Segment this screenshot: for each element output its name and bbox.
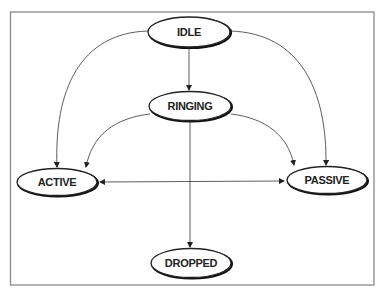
edge-active-passive-bidirectional <box>100 181 284 182</box>
node-label: DROPPED <box>165 257 218 269</box>
node-active: ACTIVE <box>17 169 98 197</box>
node-dropped: DROPPED <box>151 249 232 279</box>
node-passive: PASSIVE <box>287 167 368 195</box>
diagram-frame <box>11 12 375 285</box>
edge-ringing-to-active <box>86 114 150 167</box>
node-label: PASSIVE <box>305 174 350 186</box>
node-label: RINGING <box>168 100 213 112</box>
edge-idle-to-active <box>57 31 148 167</box>
node-label: ACTIVE <box>38 176 77 188</box>
edge-idle-to-passive <box>230 31 326 165</box>
edge-ringing-to-passive <box>231 114 294 165</box>
node-label: IDLE <box>177 26 201 38</box>
node-ringing: RINGING <box>149 92 232 122</box>
state-diagram: IDLE RINGING ACTIVE PASSIVE DROPPED <box>0 0 382 297</box>
node-idle: IDLE <box>148 17 231 48</box>
